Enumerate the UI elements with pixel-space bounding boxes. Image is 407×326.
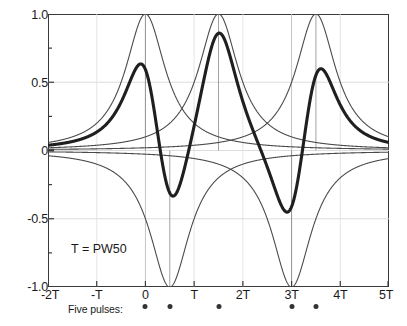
x-tick-label: -2T xyxy=(41,289,59,302)
x-axis-ticks xyxy=(48,281,388,287)
y-tick-label: 1.0 xyxy=(4,9,48,22)
y-axis-tick-labels: 1.0 0.5 0 -0.5 -1.0 xyxy=(0,0,48,326)
pulse-marker-dot xyxy=(313,304,318,309)
x-tick-label: 2T xyxy=(236,289,250,302)
pulse-curve-2 xyxy=(48,152,389,287)
x-tick-label: 0 xyxy=(142,289,149,302)
x-tick-label: -T xyxy=(91,289,102,302)
x-tick-label: 5T xyxy=(379,289,393,302)
x-tick-label: 3T xyxy=(285,289,299,302)
pulse-curve-4 xyxy=(48,152,389,287)
annotation-pw50: T = PW50 xyxy=(71,243,127,256)
pulse-marker-dot xyxy=(289,304,294,309)
pulse-marker-dot xyxy=(216,304,221,309)
five-pulses-label: Five pulses: xyxy=(68,304,123,315)
x-tick-label: 4T xyxy=(333,289,347,302)
pulse-superposition-figure: 1.0 0.5 0 -0.5 -1.0 xyxy=(0,0,407,326)
y-tick-label: 0.5 xyxy=(4,77,48,90)
y-tick-label: -0.5 xyxy=(4,213,48,226)
y-axis-ticks xyxy=(48,14,54,287)
pulse-marker-dot xyxy=(143,304,148,309)
y-tick-label: 0 xyxy=(4,145,48,158)
pulse-marker-dot xyxy=(167,304,172,309)
x-tick-label: T xyxy=(190,289,197,302)
